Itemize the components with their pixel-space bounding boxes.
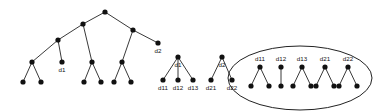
tree-node-f1[interactable] <box>81 79 86 84</box>
tree-node-d1[interactable] <box>59 59 64 64</box>
node-label-d2: d2 <box>219 61 226 68</box>
tree-decomposition-figure: d2d1d1d11d12d13d2d21d22d11d12d13d21d22 <box>0 0 374 112</box>
node-label-d1: d1 <box>175 61 182 68</box>
node-label-grp-d11: d11 <box>255 55 265 62</box>
tree-node-a[interactable] <box>80 21 85 26</box>
tree-edge <box>260 67 269 86</box>
node-label-d21: d21 <box>206 84 217 91</box>
tree-node-d22a[interactable] <box>336 83 341 88</box>
tree-edge <box>32 40 58 62</box>
tree-edge <box>339 67 348 86</box>
tree-node-d13[interactable] <box>299 64 304 69</box>
panel-d1-subtree: d1d11d12d13 <box>158 54 199 91</box>
tree-node-d13a[interactable] <box>290 83 295 88</box>
diagram-canvas: d2d1d1d11d12d13d2d21d22d11d12d13d21d22 <box>0 0 374 112</box>
tree-node-d22[interactable] <box>345 64 350 69</box>
panel-grouped-subtrees: d11d12d13d21d22 <box>228 46 372 110</box>
tree-edge <box>58 40 62 62</box>
panel-d2-subtree: d2d21d22 <box>206 54 238 91</box>
tree-node-b[interactable] <box>130 27 135 32</box>
tree-node-d21[interactable] <box>208 77 213 82</box>
node-label-d22: d22 <box>227 84 238 91</box>
tree-node-d11[interactable] <box>257 64 262 69</box>
tree-edge <box>316 67 325 86</box>
node-label-grp-d21: d21 <box>320 55 331 62</box>
node-label-d11: d11 <box>158 84 168 91</box>
tree-edge <box>251 67 260 86</box>
tree-node-d21a[interactable] <box>313 83 318 88</box>
tree-edge <box>302 67 311 86</box>
tree-edge <box>122 62 131 82</box>
tree-edge <box>114 62 122 82</box>
tree-node-d13[interactable] <box>190 77 195 82</box>
tree-node-d2[interactable] <box>155 40 160 45</box>
tree-edge <box>83 24 92 62</box>
panel-main-tree: d2d1 <box>20 9 162 84</box>
tree-node-d22[interactable] <box>229 77 234 82</box>
tree-node-g[interactable] <box>119 59 124 64</box>
tree-node-d1[interactable] <box>175 54 180 59</box>
tree-node-d22b[interactable] <box>354 83 359 88</box>
tree-edge <box>122 30 133 62</box>
tree-node-d12a[interactable] <box>278 83 283 88</box>
tree-node-e2[interactable] <box>38 79 43 84</box>
node-label-grp-d22: d22 <box>343 55 354 62</box>
tree-node-f2[interactable] <box>98 79 103 84</box>
tree-edge <box>325 67 334 86</box>
tree-node-g2[interactable] <box>128 79 133 84</box>
tree-edge <box>32 62 41 82</box>
node-label-d13: d13 <box>188 84 199 91</box>
tree-node-d21[interactable] <box>322 64 327 69</box>
tree-edge <box>105 12 133 30</box>
tree-edge <box>23 62 32 82</box>
tree-node-e[interactable] <box>29 59 34 64</box>
tree-node-g1[interactable] <box>111 79 116 84</box>
node-label-grp-d13: d13 <box>297 55 308 62</box>
tree-edge <box>92 62 101 82</box>
tree-node-d2[interactable] <box>219 54 224 59</box>
tree-node-d11a[interactable] <box>248 83 253 88</box>
tree-node-d11b[interactable] <box>266 83 271 88</box>
tree-node-d12[interactable] <box>278 64 283 69</box>
tree-node-e1[interactable] <box>20 79 25 84</box>
tree-node-d13b[interactable] <box>308 83 313 88</box>
node-label-d2: d2 <box>155 47 162 54</box>
tree-edge <box>133 30 158 43</box>
tree-node-d11[interactable] <box>160 77 165 82</box>
tree-edge <box>58 24 83 40</box>
tree-edge <box>83 12 105 24</box>
node-label-d1: d1 <box>59 66 66 73</box>
tree-node-f[interactable] <box>89 59 94 64</box>
tree-node-d12[interactable] <box>175 77 180 82</box>
node-label-d12: d12 <box>173 84 184 91</box>
tree-edge <box>84 62 92 82</box>
node-label-grp-d12: d12 <box>276 55 287 62</box>
tree-node-c[interactable] <box>55 37 60 42</box>
tree-edge <box>293 67 302 86</box>
tree-node-d21b[interactable] <box>331 83 336 88</box>
tree-edge <box>348 67 357 86</box>
tree-node-root[interactable] <box>102 9 107 14</box>
